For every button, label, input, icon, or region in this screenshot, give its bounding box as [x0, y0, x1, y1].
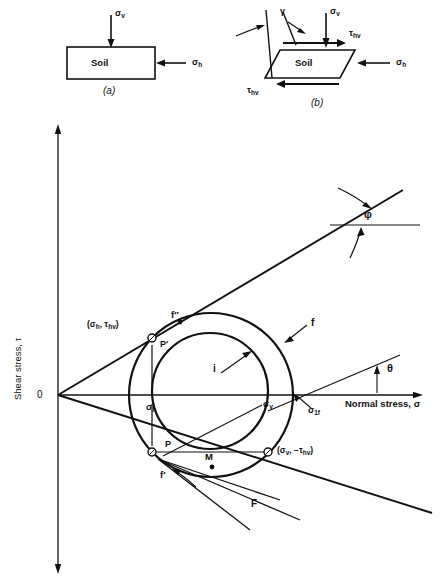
pole-line-F-label: F [251, 499, 257, 509]
pole-ray-3 [158, 459, 300, 520]
phi-label: φ [364, 209, 372, 220]
point-marker-M [210, 465, 215, 470]
pole-ray-1 [158, 459, 280, 500]
panel-a-group [67, 15, 186, 79]
panel-b-left-leader-head [256, 25, 265, 30]
panel-b-tau-top-label: τhv [349, 29, 361, 40]
point-P-label: P [165, 440, 171, 449]
theta-label: θ [387, 363, 393, 374]
panel-a-soil-label: Soil [91, 57, 108, 68]
panel-a-soil-box [67, 47, 155, 79]
panel-a-sigma-h-label: σh [192, 58, 202, 69]
panel-b-vertical-reference [266, 10, 272, 78]
panel-b-tau-bottom-head [276, 80, 285, 88]
y-axis-label: Shear stress, τ [13, 338, 23, 400]
upper-failure-envelope-line [58, 190, 403, 395]
point-f-prime-label: f′ [160, 470, 165, 480]
panel-b-soil-label: Soil [295, 57, 312, 68]
phi-lower-leader-head [357, 227, 365, 237]
phi-angle-group [330, 188, 420, 258]
panel-b-tau-top-head [337, 39, 346, 47]
axes-group [55, 124, 423, 574]
tau-axis-arrowhead-bottom [55, 564, 61, 574]
panel-b-group [236, 10, 390, 88]
coord-label-bottom: (σv, −τhv) [277, 446, 313, 457]
phi-upper-leader [338, 188, 368, 206]
sigma-v-axis-label: σv [263, 400, 273, 411]
i-circle-leader [221, 354, 248, 373]
pole-ray-2 [158, 459, 250, 530]
panel-b-sigma-h-label: σh [396, 58, 406, 69]
panel-b-caption: (b) [311, 98, 323, 108]
panel-b-tau-bottom-label: τhv [247, 86, 259, 97]
lower-failure-envelope-line [58, 395, 432, 513]
point-P-prime-label: P′ [160, 340, 168, 349]
figure-svg [0, 0, 447, 578]
x-axis-label: Normal stress, σ [345, 399, 420, 409]
panel-b-strain-line [283, 12, 296, 45]
point-M-label: M [205, 452, 213, 462]
theta-measure-head [374, 365, 380, 374]
panel-a-caption: (a) [103, 86, 115, 96]
panel-a-sigma-v-label: σv [115, 9, 125, 20]
point-marker-f-dprime [178, 320, 183, 325]
tau-axis-arrowhead-top [55, 124, 61, 134]
panel-b-gamma-label: γ [280, 7, 285, 16]
failure-circle-label: f [311, 318, 314, 328]
sigma-h-axis-label: σh [146, 403, 156, 414]
coord-label-top: (σh, τhv) [87, 320, 119, 331]
point-f-dprime-label: f″ [171, 310, 179, 320]
origin-label: 0 [37, 390, 43, 400]
figure-root: Soil σv σh (a) Soil γ σv τhv τhv σh (b) … [0, 0, 447, 578]
initial-circle-label: i [213, 364, 216, 374]
sigma-1f-axis-label: σ1f [308, 406, 320, 417]
failure-envelope-group [58, 190, 432, 513]
panel-b-sigma-v-label: σv [330, 7, 340, 18]
panel-b-sigma-h-arrowhead [357, 60, 366, 67]
panel-a-sigma-h-arrowhead [156, 60, 165, 67]
